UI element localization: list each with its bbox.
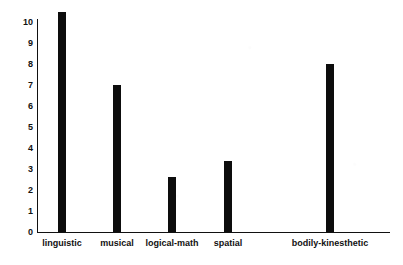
bar-bodily-kinesthetic (326, 64, 334, 232)
x-tick-label-logical-math: logical-math (145, 238, 198, 249)
y-axis-line (37, 19, 38, 233)
y-tick-label-10: 10 (0, 18, 33, 27)
y-tick-label-7: 7 (0, 81, 33, 90)
bar-linguistic (58, 12, 66, 233)
bar-musical (113, 85, 121, 232)
y-tick-label-3: 3 (0, 165, 33, 174)
y-axis-tick-labels: 012345678910 (0, 0, 33, 265)
x-tick-label-bodily-kinesthetic: bodily-kinesthetic (292, 238, 369, 249)
x-tick-label-spatial: spatial (214, 238, 243, 249)
y-tick-label-8: 8 (0, 60, 33, 69)
y-tick-label-6: 6 (0, 102, 33, 111)
x-axis-line (37, 232, 390, 233)
bar-spatial (224, 161, 232, 232)
y-tick-label-1: 1 (0, 207, 33, 216)
y-tick-label-4: 4 (0, 144, 33, 153)
plot-area: 012345678910 linguisticmusicallogical-ma… (0, 0, 403, 265)
bar-logical-math (168, 177, 176, 232)
bar-chart-figure: 012345678910 linguisticmusicallogical-ma… (0, 0, 403, 265)
y-tick-label-5: 5 (0, 123, 33, 132)
y-tick-label-9: 9 (0, 39, 33, 48)
x-tick-label-musical: musical (100, 238, 134, 249)
x-tick-label-linguistic: linguistic (42, 238, 82, 249)
y-tick-label-0: 0 (0, 228, 33, 237)
y-tick-label-2: 2 (0, 186, 33, 195)
